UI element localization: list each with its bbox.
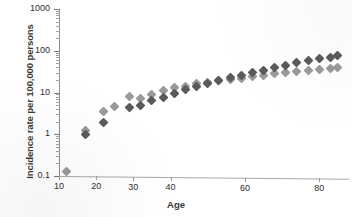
x-axis-tick: [319, 178, 320, 182]
x-axis-tick-label: 20: [81, 181, 111, 191]
data-point: [136, 100, 146, 110]
y-axis-minor-tick: [56, 18, 60, 19]
y-axis-tick: [54, 93, 60, 94]
x-axis-tick: [96, 176, 97, 180]
data-point: [303, 56, 313, 66]
data-point: [292, 66, 302, 76]
y-axis-minor-tick: [56, 67, 60, 68]
data-point: [99, 118, 109, 128]
y-axis-minor-tick: [56, 53, 60, 54]
x-axis-tick: [59, 176, 60, 180]
y-axis-minor-tick: [56, 63, 60, 64]
y-axis-minor-tick: [56, 31, 60, 32]
y-axis-minor-tick: [56, 94, 60, 95]
data-point: [158, 93, 168, 103]
y-axis-minor-tick: [56, 26, 60, 27]
data-point: [61, 166, 71, 176]
data-point: [333, 51, 343, 61]
y-axis-minor-tick: [56, 11, 60, 12]
y-axis-minor-tick: [56, 136, 60, 137]
y-axis-minor-tick: [56, 15, 60, 16]
x-axis-tick: [133, 177, 134, 181]
data-point: [110, 102, 120, 112]
y-axis-minor-tick: [56, 55, 60, 56]
y-axis-tick-label: 10: [4, 87, 50, 97]
x-axis-tick-label: 60: [230, 183, 260, 193]
y-axis-minor-tick: [56, 13, 60, 14]
y-axis-minor-tick: [56, 97, 60, 98]
x-axis-line: [59, 176, 349, 180]
y-axis-minor-tick: [56, 57, 60, 58]
y-axis-minor-tick: [56, 147, 60, 148]
x-axis-tick: [245, 178, 246, 182]
y-axis-tick-label: 100: [4, 45, 50, 55]
data-point: [214, 75, 224, 85]
y-axis-tick: [54, 134, 60, 135]
x-axis-tick-label: 10: [44, 181, 74, 191]
data-point: [125, 92, 135, 102]
y-axis-minor-tick: [56, 38, 60, 39]
y-axis-minor-tick: [56, 138, 60, 139]
data-point: [303, 65, 313, 75]
data-point: [203, 78, 213, 88]
y-axis-minor-tick: [56, 73, 60, 74]
incidence-rate-by-age-chart: Incidence rate per 100,000 persons Age 0…: [0, 0, 352, 217]
y-axis-minor-tick: [56, 99, 60, 100]
y-axis-minor-tick: [56, 151, 60, 152]
data-point: [292, 58, 302, 68]
y-axis-tick-label: 0.1: [4, 170, 50, 180]
x-axis-tick-label: 30: [118, 182, 148, 192]
y-axis-minor-tick: [56, 60, 60, 61]
data-point: [281, 60, 291, 70]
y-axis-minor-tick: [56, 105, 60, 106]
y-axis-minor-tick: [56, 114, 60, 115]
x-axis-tick: [171, 177, 172, 181]
y-axis-minor-tick: [56, 102, 60, 103]
y-axis-minor-tick: [56, 122, 60, 123]
y-axis-tick-label: 1: [4, 128, 50, 138]
y-axis-title: Incidence rate per 100,000 persons: [24, 17, 35, 187]
data-point: [125, 103, 135, 113]
data-point: [314, 54, 324, 64]
y-axis-tick: [54, 51, 60, 52]
y-axis-minor-tick: [56, 163, 60, 164]
data-point: [147, 96, 157, 106]
data-point: [99, 106, 109, 116]
y-axis-tick-label: 1000: [4, 3, 50, 13]
y-axis-minor-tick: [56, 141, 60, 142]
y-axis-minor-tick: [56, 156, 60, 157]
x-axis-tick-label: 40: [156, 182, 186, 192]
y-axis-tick: [54, 9, 60, 10]
x-axis-title: Age: [0, 199, 352, 210]
y-axis-minor-tick: [56, 144, 60, 145]
data-point: [169, 88, 179, 98]
x-axis-tick-label: 80: [304, 183, 334, 193]
y-axis-minor-tick: [56, 22, 60, 23]
data-point: [314, 64, 324, 74]
data-point: [333, 62, 343, 72]
y-axis-minor-tick: [56, 109, 60, 110]
y-axis-minor-tick: [56, 80, 60, 81]
